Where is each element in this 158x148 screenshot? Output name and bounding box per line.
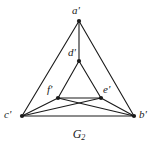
vertex-label-e: e' — [103, 84, 110, 95]
vertex-f — [56, 96, 60, 100]
edge-d-f — [58, 61, 79, 98]
vertex-d — [77, 59, 81, 63]
edge-b-f — [58, 98, 134, 116]
edge-d-e — [79, 61, 101, 98]
vertex-b — [132, 114, 136, 118]
figure-container: a'd'f'e'c'b' G2 — [0, 0, 158, 148]
vertex-a — [77, 19, 81, 23]
vertex-label-a: a' — [72, 5, 80, 16]
edge-layer — [22, 21, 134, 116]
vertex-e — [99, 96, 103, 100]
graph-diagram — [0, 0, 158, 148]
edge-c-e — [22, 98, 101, 116]
caption-subscript: 2 — [81, 133, 85, 142]
vertex-c — [20, 114, 24, 118]
vertex-label-c: c' — [4, 109, 11, 120]
vertex-label-f: f' — [47, 84, 52, 95]
vertex-label-b: b' — [139, 109, 147, 120]
vertex-label-d: d' — [68, 47, 76, 58]
edge-a-b — [79, 21, 134, 116]
figure-caption: G2 — [0, 128, 158, 140]
